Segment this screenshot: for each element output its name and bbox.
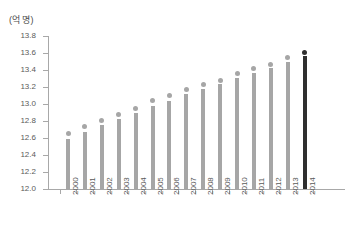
y-axis-tick-label: 12.8 (0, 116, 36, 125)
y-axis-tick (43, 53, 48, 54)
bar (201, 89, 205, 189)
bar-marker-dot (99, 118, 104, 123)
x-axis-label: 2014 (308, 177, 317, 195)
bar-marker-dot (218, 78, 223, 83)
x-axis-label: 2006 (172, 177, 181, 195)
bar-marker-dot (184, 87, 189, 92)
bar (286, 62, 290, 189)
x-axis-label: 2007 (189, 177, 198, 195)
y-axis-tick-label: 13.4 (0, 65, 36, 74)
bar (151, 106, 155, 189)
x-axis-label: 2008 (206, 177, 215, 195)
bar (235, 78, 239, 189)
y-axis-tick (43, 155, 48, 156)
x-axis-label: 2002 (105, 177, 114, 195)
y-axis-tick (43, 36, 48, 37)
x-axis-label: 2013 (291, 177, 300, 195)
bar (218, 84, 222, 189)
y-axis-unit-label: (억 명) (9, 13, 34, 26)
y-axis-tick-label: 12.4 (0, 150, 36, 159)
x-axis-label: 2012 (274, 177, 283, 195)
x-axis-label: 2010 (240, 177, 249, 195)
bar (66, 139, 70, 189)
y-axis-tick-label: 12.6 (0, 133, 36, 142)
bar-marker-dot (268, 62, 273, 67)
bar-marker-dot (235, 71, 240, 76)
y-axis-tick-label: 13.0 (0, 99, 36, 108)
bar (252, 73, 256, 189)
x-axis-label: 2005 (156, 177, 165, 195)
y-axis-tick-label: 13.6 (0, 48, 36, 57)
bar-marker-dot (201, 82, 206, 87)
bar-marker-dot (285, 55, 290, 60)
y-axis-line (48, 36, 49, 190)
bar (117, 119, 121, 189)
x-axis-label: 2003 (122, 177, 131, 195)
y-axis-tick-label: 12.2 (0, 167, 36, 176)
bar-marker-dot (116, 112, 121, 117)
bar (134, 113, 138, 190)
y-axis-tick (43, 172, 48, 173)
bar-marker-dot (82, 124, 87, 129)
x-axis-label: 2009 (223, 177, 232, 195)
y-axis-tick (43, 104, 48, 105)
y-axis-tick-label: 13.2 (0, 82, 36, 91)
bar (269, 68, 273, 189)
bar-marker-dot (66, 131, 71, 136)
y-axis-tick (43, 121, 48, 122)
bar (184, 94, 188, 189)
y-axis-tick (43, 189, 48, 190)
population-bar-chart: (억 명) 12.012.212.412.612.813.013.213.413… (0, 0, 354, 226)
bar (303, 56, 307, 189)
y-axis-tick (43, 87, 48, 88)
x-axis-label: 2001 (88, 177, 97, 195)
bar (100, 125, 104, 189)
x-axis-label: 2004 (139, 177, 148, 195)
y-axis-tick (43, 70, 48, 71)
bar-marker-dot (302, 50, 307, 55)
y-axis-tick-label: 13.8 (0, 31, 36, 40)
x-axis-label: 2000 (71, 177, 80, 195)
bar-marker-dot (167, 93, 172, 98)
bar-marker-dot (251, 66, 256, 71)
x-axis-tick (60, 189, 61, 194)
y-axis-tick (43, 138, 48, 139)
y-axis-tick-label: 12.0 (0, 184, 36, 193)
bar (167, 101, 171, 189)
bar-marker-dot (133, 106, 138, 111)
x-axis-label: 2011 (257, 178, 266, 195)
bar-marker-dot (150, 98, 155, 103)
bar (83, 132, 87, 189)
